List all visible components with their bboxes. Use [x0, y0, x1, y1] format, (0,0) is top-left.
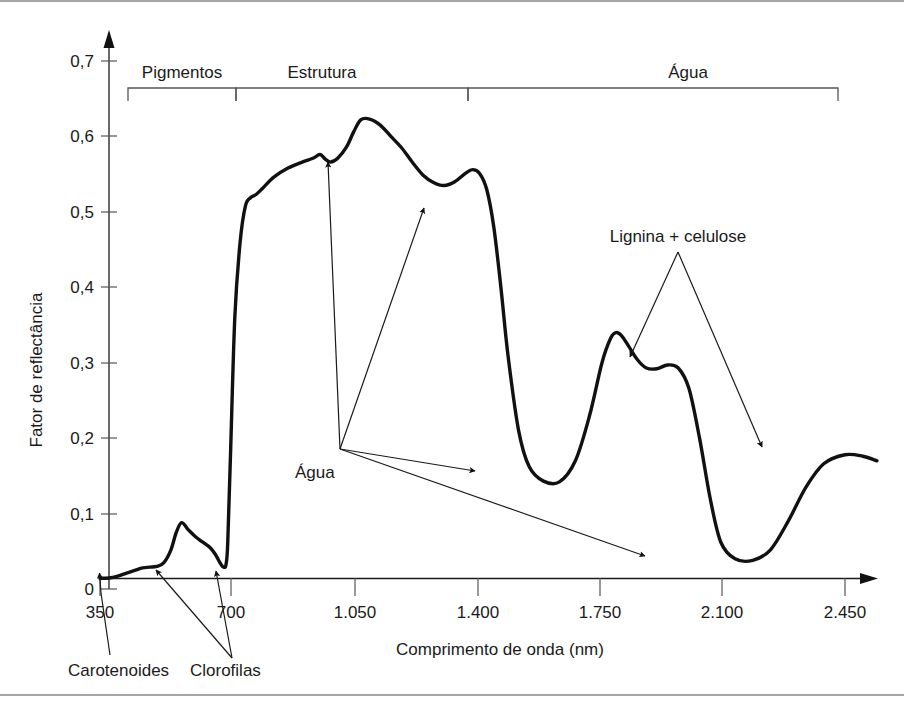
annotation-clorofilas: Clorofilas [156, 570, 261, 680]
bracket-agua [468, 88, 838, 101]
y-tick-label-0.7: 0,7 [70, 52, 94, 71]
lignina-arrow-right [678, 252, 762, 447]
y-tick-label-0.4: 0,4 [70, 278, 94, 297]
y-tick-label-0.6: 0,6 [70, 127, 94, 146]
band-label-estrutura: Estrutura [288, 63, 358, 82]
band-label-pigmentos: Pigmentos [142, 63, 222, 82]
y-tick-label-0.3: 0,3 [70, 354, 94, 373]
spectral-reflectance-chart: 0,7 0,6 0,5 0,4 0,3 0,2 0,1 0 350 700 1.… [0, 0, 904, 714]
annotation-agua: Água [295, 162, 645, 556]
y-tick-group: 0,7 0,6 0,5 0,4 0,3 0,2 0,1 0 [70, 52, 117, 599]
x-tick-label-2100: 2.100 [701, 603, 744, 622]
agua-arrow-1 [328, 162, 340, 449]
y-tick-label-0.1: 0,1 [70, 505, 94, 524]
y-axis-title: Fator de reflectância [27, 292, 46, 448]
x-tick-label-1750: 1.750 [579, 603, 622, 622]
lignina-label: Lignina + celulose [610, 227, 747, 246]
agua-arrow-4 [340, 449, 645, 556]
x-axis-title: Comprimento de onda (nm) [396, 640, 604, 659]
x-tick-label-2450: 2.450 [824, 603, 867, 622]
y-tick-label-0.5: 0,5 [70, 203, 94, 222]
y-tick-label-0.2: 0,2 [70, 429, 94, 448]
x-tick-label-1050: 1.050 [334, 603, 377, 622]
agua-arrow-2 [340, 208, 424, 449]
annotation-lignina: Lignina + celulose [610, 227, 762, 447]
x-tick-group: 350 700 1.050 1.400 1.750 2.100 2.450 [86, 578, 866, 622]
figure-root: 0,7 0,6 0,5 0,4 0,3 0,2 0,1 0 350 700 1.… [0, 0, 904, 714]
agua-annotation-label: Água [295, 463, 335, 482]
x-tick-label-350: 350 [86, 603, 114, 622]
band-label-agua: Água [668, 63, 708, 82]
x-axis-arrowhead [860, 573, 878, 584]
y-tick-label-0: 0 [85, 580, 94, 599]
bracket-estrutura [236, 88, 468, 101]
bracket-pigmentos [128, 88, 236, 101]
spectral-reflectance-curve [100, 118, 877, 578]
annotation-carotenoides: Carotenoides [68, 573, 169, 680]
x-tick-label-700: 700 [217, 603, 245, 622]
clorofilas-label: Clorofilas [190, 661, 261, 680]
x-tick-label-1400: 1.400 [457, 603, 500, 622]
y-axis-arrowhead [104, 30, 115, 48]
axis-group [100, 30, 878, 589]
agua-arrow-3 [340, 449, 475, 471]
carotenoides-label: Carotenoides [68, 661, 169, 680]
lignina-arrow-left [630, 252, 678, 357]
band-bracket-group: Pigmentos Estrutura Água [128, 63, 838, 101]
